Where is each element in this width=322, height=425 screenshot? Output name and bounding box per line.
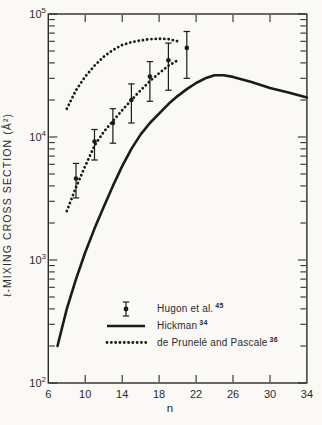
chart-legend: Hugon et al.45 Hickman34 de Prunelé and …: [102, 300, 278, 351]
y-tick-label: 105: [29, 6, 46, 20]
y-tick-label: 102: [29, 375, 46, 389]
de-prunele-pascale-curve-lower: [67, 60, 178, 211]
x-axis-title: n: [167, 402, 173, 414]
legend-label-hugon: Hugon et al.45: [157, 302, 224, 314]
y-axis-title: ℓ-MIXING CROSS SECTION (Å²): [1, 113, 13, 297]
legend-item-hugon: Hugon et al.45: [102, 300, 278, 317]
x-tick-label: 6: [45, 388, 51, 400]
x-tick-label: 14: [116, 388, 128, 400]
legend-item-deprunele: de Prunelé and Pascale36: [102, 334, 278, 351]
legend-label-hickman: Hickman34: [157, 319, 207, 331]
figure-l-mixing-cross-section: 610141822263034102103104105nℓ-MIXING CRO…: [0, 0, 322, 425]
error-bar-marker-icon: [102, 300, 150, 318]
legend-ref-hickman: 34: [199, 319, 207, 326]
hugon-data-point: [73, 163, 79, 198]
legend-item-hickman: Hickman34: [102, 317, 278, 334]
dotted-line-marker-icon: [102, 340, 150, 345]
chart-plot-area: 610141822263034102103104105nℓ-MIXING CRO…: [0, 0, 322, 425]
y-tick-label: 103: [29, 252, 46, 266]
solid-line-marker-icon: [102, 324, 150, 328]
y-tick-label: 104: [29, 129, 46, 143]
x-tick-label: 22: [190, 388, 202, 400]
legend-label-deprunele: de Prunelé and Pascale36: [157, 336, 278, 348]
hugon-data-point: [110, 109, 116, 144]
de-prunele-pascale-curve-upper: [67, 39, 178, 109]
x-tick-label: 30: [264, 388, 276, 400]
hugon-data-point: [184, 32, 190, 79]
legend-ref-deprunele: 36: [270, 336, 278, 343]
x-tick-label: 34: [301, 388, 313, 400]
x-tick-label: 26: [227, 388, 239, 400]
x-tick-label: 18: [153, 388, 165, 400]
legend-ref-hugon: 45: [215, 302, 223, 309]
x-tick-label: 10: [79, 388, 91, 400]
